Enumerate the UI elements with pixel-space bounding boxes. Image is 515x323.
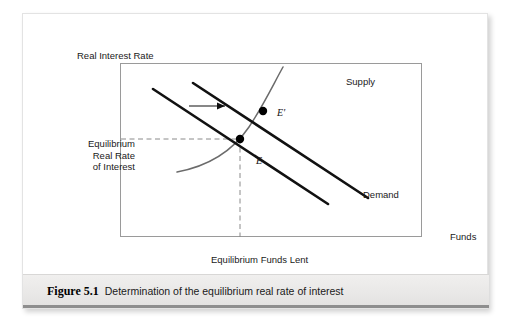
equilibrium-point-e-label: E xyxy=(256,155,262,166)
figure-caption: Figure 5.1Determination of the equilibri… xyxy=(47,284,343,299)
demand-curve-label: Demand xyxy=(363,189,399,201)
y-axis-title: Real Interest Rate xyxy=(77,50,154,62)
funds-axis-label: Funds xyxy=(450,231,476,243)
figure-plot-area: Real Interest Rate Supply Demand Equilib… xyxy=(23,14,489,276)
equilibrium-point-e-prime xyxy=(259,107,267,115)
figure-caption-bar: Figure 5.1Determination of the equilibri… xyxy=(23,274,489,308)
equilibrium-rate-label-line-3: of Interest xyxy=(57,161,135,173)
caption-bottom-rule xyxy=(23,305,489,308)
equilibrium-point-e-prime-label: E' xyxy=(277,107,285,118)
figure-title: Determination of the equilibrium real ra… xyxy=(105,285,344,297)
equilibrium-rate-label-line-2: Real Rate xyxy=(57,150,135,162)
figure-number: Figure 5.1 xyxy=(47,284,99,298)
equilibrium-point-e xyxy=(236,135,244,143)
figure-card: Real Interest Rate Supply Demand Equilib… xyxy=(22,13,488,309)
equilibrium-rate-label-line-1: Equilibrium xyxy=(57,138,135,150)
x-axis-title: Equilibrium Funds Lent xyxy=(211,254,308,266)
supply-curve-label: Supply xyxy=(346,76,375,88)
equilibrium-rate-axis-label: Equilibrium Real Rate of Interest xyxy=(57,138,135,173)
